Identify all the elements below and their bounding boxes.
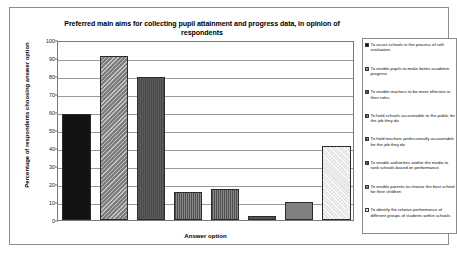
legend-swatch-icon [365,90,369,94]
legend-item-label: To enable authorities and/or the media t… [371,160,457,171]
bar [211,189,239,220]
legend-item[interactable]: To assist schools in the process of self… [365,42,456,53]
x-axis-title: Answer option [57,232,354,239]
bar [137,77,165,220]
y-axis-tick-label: 50 [33,128,55,134]
legend-item-label: To enable pupils to make better academic… [371,66,457,77]
y-axis-tick-label: 80 [33,74,55,80]
y-axis-tick-label: 90 [33,56,55,62]
legend-item[interactable]: To enable authorities and/or the media t… [365,160,456,171]
y-axis-tick-label: 100 [33,38,55,44]
bar [174,192,202,220]
legend-item-label: To identify the relative performance of … [371,207,457,218]
bar [248,216,276,221]
legend-item[interactable]: To hold teachers professionally accounta… [365,136,456,147]
legend-item-label: To enable teachers to be more effective … [371,89,457,100]
y-axis-tick-label: 0 [33,218,55,224]
chart-title: Preferred main aims for collecting pupil… [52,20,352,39]
y-axis-ticks: 0102030405060708090100 [31,41,55,221]
legend-item-label: To hold schools accountable to the publi… [371,113,457,124]
y-axis-title: Percentage of respondents choosing answe… [24,35,30,195]
legend-swatch-icon [365,43,369,47]
legend-item-label: To enable parents to choose the best sch… [371,184,457,195]
legend-item-label: To hold teachers professionally accounta… [371,136,457,147]
y-axis-tick-label: 20 [33,182,55,188]
legend-item[interactable]: To hold schools accountable to the publi… [365,113,456,124]
legend-swatch-icon [365,185,369,189]
y-axis-tick-label: 70 [33,92,55,98]
chart-frame: Preferred main aims for collecting pupil… [9,7,449,245]
bar [285,202,313,220]
legend-item[interactable]: To identify the relative performance of … [365,207,456,218]
bar [62,114,90,220]
legend-item[interactable]: To enable pupils to make better academic… [365,66,456,77]
legend: To assist schools in the process of self… [362,38,457,234]
y-axis-tick-label: 10 [33,200,55,206]
legend-item-label: To assist schools in the process of self… [371,42,457,53]
bars-layer [58,42,353,220]
legend-swatch-icon [365,161,369,165]
y-axis-tick-label: 40 [33,146,55,152]
legend-swatch-icon [365,67,369,71]
legend-swatch-icon [365,114,369,118]
y-axis-tick-label: 60 [33,110,55,116]
legend-swatch-icon [365,208,369,212]
legend-item[interactable]: To enable teachers to be more effective … [365,89,456,100]
bar [100,56,128,220]
bar [322,146,350,220]
legend-swatch-icon [365,137,369,141]
plot-area [57,41,354,221]
legend-item[interactable]: To enable parents to choose the best sch… [365,184,456,195]
y-axis-tick-label: 30 [33,164,55,170]
